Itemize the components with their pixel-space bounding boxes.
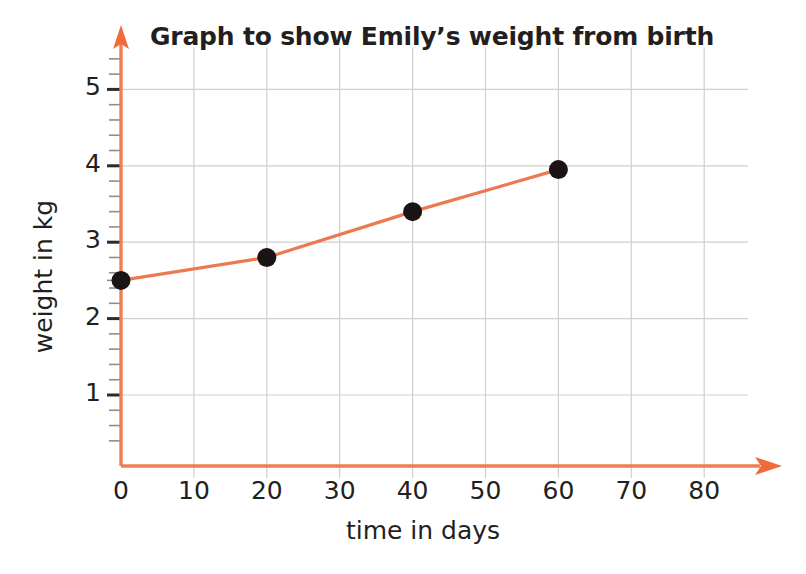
data-point-marker bbox=[403, 202, 422, 221]
x-axis-tick-label: 0 bbox=[91, 476, 151, 505]
x-axis-tick-label: 60 bbox=[528, 476, 588, 505]
x-axis-tick-label: 20 bbox=[237, 476, 297, 505]
y-axis-title: weight in kg bbox=[29, 177, 58, 377]
x-axis-tick-label: 50 bbox=[456, 476, 516, 505]
chart-container: Graph to show Emily’s weight from birth … bbox=[0, 0, 806, 574]
x-axis-tick-label: 80 bbox=[674, 476, 734, 505]
data-point-marker bbox=[112, 271, 131, 290]
data-point-marker bbox=[549, 160, 568, 179]
grid-lines-horizontal bbox=[121, 89, 748, 395]
x-axis-tick-label: 40 bbox=[383, 476, 443, 505]
x-axis-tick-label: 30 bbox=[310, 476, 370, 505]
x-axis-title: time in days bbox=[253, 516, 593, 545]
x-axis-tick-label: 70 bbox=[601, 476, 661, 505]
y-axis-tick-label: 1 bbox=[67, 378, 101, 407]
x-axis-tick-label: 10 bbox=[164, 476, 224, 505]
chart-title: Graph to show Emily’s weight from birth bbox=[150, 22, 670, 51]
axis-lines bbox=[113, 25, 782, 475]
y-axis-tick-label: 3 bbox=[67, 225, 101, 254]
y-axis-tick-label: 2 bbox=[67, 302, 101, 331]
y-axis-tick-label: 4 bbox=[67, 149, 101, 178]
data-point-marker bbox=[257, 248, 276, 267]
y-axis-tick-label: 5 bbox=[67, 72, 101, 101]
